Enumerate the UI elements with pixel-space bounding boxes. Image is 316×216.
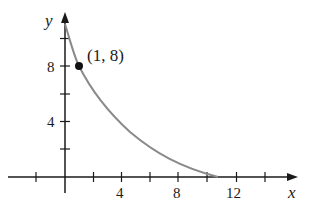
x-axis-arrow-icon (287, 173, 298, 181)
y-axis-arrow-icon (61, 12, 69, 23)
x-tick-label-8: 8 (173, 185, 181, 201)
point-label: (1, 8) (87, 46, 124, 65)
x-tick-label-4: 4 (116, 185, 124, 201)
chart: (1, 8) 4 8 12 4 8 x y (0, 0, 316, 216)
y-tick-label-8: 8 (47, 59, 55, 75)
y-axis-label: y (43, 11, 53, 30)
x-axis-label: x (287, 183, 296, 202)
x-tick-label-12: 12 (226, 185, 241, 201)
point-marker (75, 62, 83, 70)
y-tick-label-4: 4 (47, 114, 55, 130)
